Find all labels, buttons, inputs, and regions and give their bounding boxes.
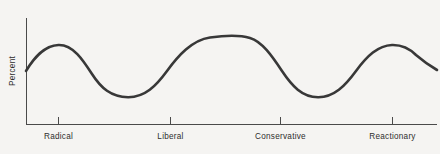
x-tick-label-radical: Radical — [44, 132, 73, 141]
x-tick-label-conservative: Conservative — [255, 132, 306, 141]
y-axis-title: Percent — [8, 56, 17, 86]
data-series-line — [26, 36, 437, 98]
chart-container: Percent Radical Liberal Conservative Rea… — [0, 0, 440, 154]
x-tick-label-reactionary: Reactionary — [369, 132, 416, 141]
x-tick-label-liberal: Liberal — [157, 132, 183, 141]
line-chart: Percent Radical Liberal Conservative Rea… — [0, 0, 440, 154]
